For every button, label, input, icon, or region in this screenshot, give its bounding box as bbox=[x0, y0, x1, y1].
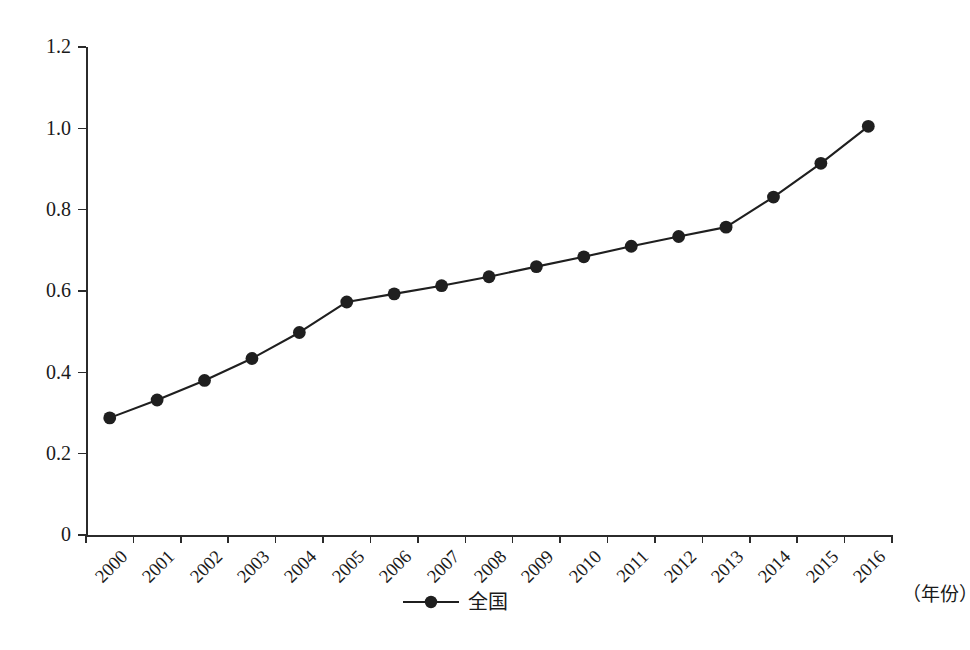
plot-area: 00.20.40.60.81.01.2 20002001200220032004… bbox=[86, 47, 892, 535]
data-point-marker bbox=[530, 260, 543, 273]
legend-item-national: 全国 bbox=[401, 592, 508, 612]
series-plot bbox=[86, 47, 892, 535]
data-point-marker bbox=[246, 352, 259, 365]
y-tick-label: 1.0 bbox=[46, 117, 71, 137]
data-point-marker bbox=[151, 394, 164, 407]
y-tick-label: 0.8 bbox=[46, 199, 71, 219]
data-point-marker bbox=[340, 296, 353, 309]
y-tick: 0.8 bbox=[78, 209, 86, 211]
x-axis-line bbox=[86, 535, 892, 537]
series-line-0 bbox=[110, 126, 869, 418]
data-point-marker bbox=[767, 191, 780, 204]
x-tick bbox=[512, 535, 514, 543]
y-tick: 0.4 bbox=[78, 372, 86, 374]
x-tick bbox=[654, 535, 656, 543]
chart-legend: 全国 bbox=[0, 592, 909, 612]
y-tick: 1.0 bbox=[78, 128, 86, 130]
data-point-marker bbox=[483, 270, 496, 283]
data-point-marker bbox=[720, 221, 733, 234]
y-tick-label: 0.6 bbox=[46, 280, 71, 300]
data-point-marker bbox=[814, 157, 827, 170]
x-tick bbox=[370, 535, 372, 543]
x-tick bbox=[417, 535, 419, 543]
data-point-marker bbox=[862, 120, 875, 133]
data-point-marker bbox=[198, 374, 211, 387]
x-tick bbox=[465, 535, 467, 543]
y-tick: 0.2 bbox=[78, 453, 86, 455]
x-tick bbox=[891, 535, 893, 543]
x-tick bbox=[227, 535, 229, 543]
y-tick: 1.2 bbox=[78, 46, 86, 48]
x-tick bbox=[796, 535, 798, 543]
x-tick bbox=[844, 535, 846, 543]
x-tick bbox=[275, 535, 277, 543]
x-tick bbox=[322, 535, 324, 543]
x-tick bbox=[85, 535, 87, 543]
x-tick bbox=[702, 535, 704, 543]
legend-label-national: 全国 bbox=[468, 592, 508, 612]
x-axis-title: （年份） bbox=[902, 585, 970, 604]
legend-line-marker-icon bbox=[401, 593, 461, 611]
x-tick bbox=[133, 535, 135, 543]
y-tick-label: 1.2 bbox=[46, 36, 71, 56]
data-point-marker bbox=[672, 230, 685, 243]
x-tick bbox=[749, 535, 751, 543]
x-tick bbox=[607, 535, 609, 543]
y-tick-label: 0.4 bbox=[46, 361, 71, 381]
y-axis-line bbox=[86, 47, 88, 535]
data-point-marker bbox=[293, 326, 306, 339]
y-tick-label: 0.2 bbox=[46, 443, 71, 463]
data-point-marker bbox=[435, 279, 448, 292]
data-point-marker bbox=[103, 411, 116, 424]
y-tick: 0.6 bbox=[78, 290, 86, 292]
y-tick-label: 0 bbox=[61, 524, 71, 544]
x-tick bbox=[559, 535, 561, 543]
data-point-marker bbox=[625, 240, 638, 253]
data-point-marker bbox=[388, 287, 401, 300]
data-point-marker bbox=[577, 250, 590, 263]
x-tick bbox=[180, 535, 182, 543]
